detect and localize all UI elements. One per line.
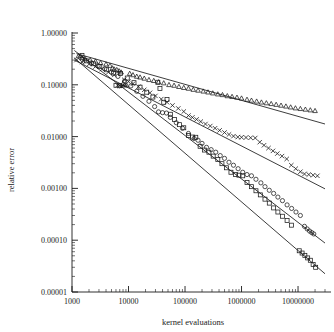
data-point-triangle (264, 101, 269, 105)
data-point-circle (263, 185, 267, 189)
data-point-circle (285, 203, 289, 207)
data-point-triangle (167, 82, 172, 86)
data-point-circle (254, 177, 258, 181)
data-point-triangle (172, 83, 177, 87)
data-point-triangle (279, 103, 284, 107)
data-point-triangle (298, 106, 303, 110)
data-point-circle (160, 111, 164, 115)
data-point-triangle (235, 95, 240, 99)
data-point-square (280, 214, 284, 218)
data-point-square (272, 206, 276, 210)
data-point-circle (147, 99, 151, 103)
data-point-cross (213, 126, 217, 130)
data-point-circle (116, 74, 120, 78)
data-point-square (285, 219, 289, 223)
data-point-triangle (127, 71, 132, 75)
data-point-circle (227, 160, 231, 164)
data-point-triangle (284, 104, 289, 108)
data-point-triangle (142, 76, 147, 80)
fit-line (76, 54, 325, 124)
data-point-circle (294, 210, 298, 214)
data-point-cross (280, 154, 284, 158)
data-point-cross (253, 136, 257, 140)
chart-figure: 1000100001000001000000100000001.000000.1… (0, 0, 334, 332)
data-point-triangle (186, 86, 191, 90)
data-point-triangle (269, 101, 274, 105)
data-point-triangle (288, 105, 293, 109)
x-tick-label: 1000000 (228, 297, 256, 306)
x-tick-label: 1000 (64, 297, 80, 306)
data-point-triangle (239, 96, 244, 100)
data-point-cross (199, 119, 203, 123)
data-point-circle (272, 191, 276, 195)
data-point-cross (203, 122, 207, 126)
data-point-cross (275, 151, 279, 155)
data-point-triangle (274, 102, 279, 106)
axes (72, 32, 331, 292)
y-tick-label: 0.10000 (41, 81, 67, 90)
data-point-circle (276, 195, 280, 199)
data-point-triangle (308, 108, 313, 112)
data-point-circle (218, 153, 222, 157)
data-point-triangle (313, 108, 318, 112)
y-tick-label: 0.00001 (41, 288, 67, 297)
data-point-circle (267, 188, 271, 192)
data-point-cross (266, 146, 270, 150)
data-point-triangle (293, 106, 298, 110)
data-point-cross (244, 135, 248, 139)
data-point-triangle (249, 98, 254, 102)
data-point-cross (231, 134, 235, 138)
data-point-cross (284, 157, 288, 161)
fit-line (74, 50, 325, 243)
data-point-triangle (177, 84, 182, 88)
data-point-circle (298, 213, 302, 217)
y-tick-label: 0.01000 (41, 133, 67, 142)
data-point-circle (249, 174, 253, 178)
data-point-circle (290, 206, 294, 210)
data-point-triangle (181, 85, 186, 89)
data-point-cross (302, 172, 306, 176)
data-point-triangle (254, 99, 259, 103)
data-point-circle (236, 167, 240, 171)
data-point-cross (307, 172, 311, 176)
data-point-square (158, 86, 162, 90)
data-point-square (276, 210, 280, 214)
data-point-circle (245, 172, 249, 176)
data-point-triangle (147, 77, 152, 81)
data-point-cross (294, 167, 298, 171)
data-point-circle (156, 110, 160, 114)
data-point-cross (208, 124, 212, 128)
y-tick-label: 1.00000 (41, 29, 67, 38)
data-point-cross (271, 149, 275, 153)
data-point-circle (259, 181, 263, 185)
data-point-cross (194, 117, 198, 121)
x-tick-label: 100000 (173, 297, 197, 306)
x-tick-label: 10000000 (282, 297, 314, 306)
data-point-cross (311, 173, 315, 177)
data-point-cross (227, 132, 231, 136)
data-point-circle (214, 150, 218, 154)
data-point-triangle (245, 97, 250, 101)
data-point-cross (222, 130, 226, 134)
data-point-cross (217, 128, 221, 132)
y-tick-label: 0.00100 (41, 184, 67, 193)
data-point-triangle (151, 78, 156, 82)
data-point-cross (298, 170, 302, 174)
data-point-triangle (191, 87, 196, 91)
data-point-cross (153, 94, 157, 98)
data-point-cross (258, 140, 262, 144)
fit-lines (74, 50, 325, 273)
data-point-cross (248, 136, 252, 140)
tick-labels: 1000100001000001000000100000001.000000.1… (41, 29, 314, 306)
data-point-circle (222, 156, 226, 160)
data-point-cross (262, 143, 266, 147)
data-point-square (290, 223, 294, 227)
y-axis-label: relative error (6, 148, 16, 192)
log-log-scatter-chart: 1000100001000001000000100000001.000000.1… (0, 0, 334, 332)
data-point-cross (315, 174, 319, 178)
data-point-circle (164, 111, 168, 115)
data-point-cross (170, 103, 174, 107)
data-point-circle (231, 163, 235, 167)
data-point-triangle (303, 107, 308, 111)
data-point-cross (289, 163, 293, 167)
